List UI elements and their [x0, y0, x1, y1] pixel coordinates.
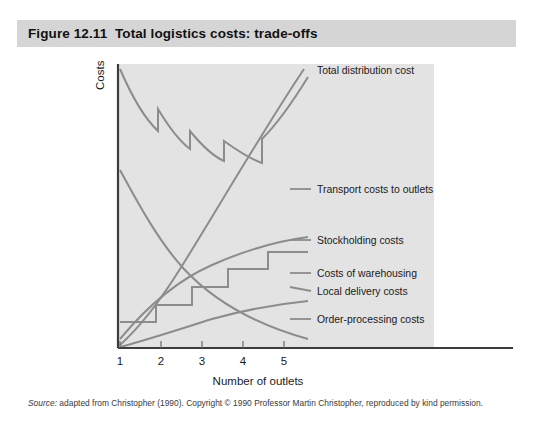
x-tick-label-1: 1: [117, 355, 123, 367]
x-axis-title: Number of outlets: [213, 375, 304, 387]
figure-title-band: Figure 12.11 Total logistics costs: trad…: [17, 20, 516, 47]
chart-area: 1 2 3 4 5 Number of outlets Costs Total …: [0, 47, 533, 387]
series-label-total-distribution-cost: Total distribution cost: [317, 65, 414, 76]
source-text: adapted from Christopher (1990). Copyrig…: [57, 398, 483, 408]
x-tick-label-4: 4: [240, 355, 247, 367]
logistics-cost-chart: 1 2 3 4 5 Number of outlets Costs Total …: [0, 47, 533, 387]
series-label-order-processing-costs: Order-processing costs: [317, 314, 424, 325]
source-label: Source:: [28, 398, 57, 408]
x-tick-label-3: 3: [199, 355, 205, 367]
series-label-stockholding-costs: Stockholding costs: [317, 235, 404, 246]
series-label-local-delivery-costs: Local delivery costs: [317, 286, 408, 297]
series-label-transport-costs-to-outlets: Transport costs to outlets: [317, 184, 433, 195]
x-tick-label-2: 2: [158, 355, 164, 367]
figure-container: Figure 12.11 Total logistics costs: trad…: [0, 0, 533, 435]
source-attribution: Source: adapted from Christopher (1990).…: [28, 398, 508, 409]
figure-title: Figure 12.11 Total logistics costs: trad…: [17, 26, 318, 41]
x-tick-label-5: 5: [281, 355, 287, 367]
y-axis-title: Costs: [94, 60, 106, 90]
series-label-costs-of-warehousing: Costs of warehousing: [317, 268, 417, 279]
